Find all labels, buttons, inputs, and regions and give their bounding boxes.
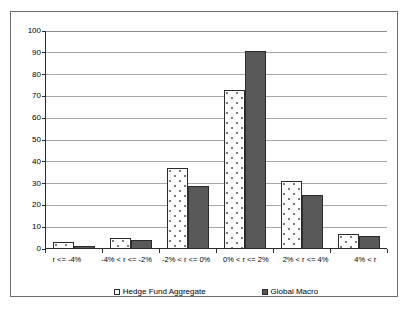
bar	[167, 168, 188, 249]
legend-entry: Global Macro	[262, 288, 319, 296]
bar	[359, 236, 380, 249]
bar-group	[330, 31, 387, 249]
bar-group	[45, 31, 102, 249]
x-axis-tickmark	[330, 249, 331, 253]
bar	[245, 51, 266, 249]
y-axis-tick-label: 30	[32, 180, 41, 188]
x-axis-tickmark	[273, 249, 274, 253]
x-axis-tickmark	[216, 249, 217, 253]
x-axis-category-label: r <= -4%	[37, 255, 97, 265]
legend-entry: Hedge Fund Aggregate	[114, 288, 206, 296]
chart-frame: 0102030405060708090100 r <= -4%-4% < r <…	[10, 11, 398, 297]
y-axis-tick-label: 20	[32, 201, 41, 209]
bar-series-layer	[45, 31, 387, 249]
y-axis-tick-label: 60	[32, 114, 41, 122]
y-axis-tick-label: 0	[37, 245, 41, 253]
bar-group	[216, 31, 273, 249]
y-axis-tick-label: 80	[32, 71, 41, 79]
y-axis-tick-label: 40	[32, 158, 41, 166]
x-axis-tickmarks	[45, 249, 387, 253]
bar	[338, 234, 359, 249]
x-axis-tickmark	[45, 249, 46, 253]
legend-label: Hedge Fund Aggregate	[123, 288, 206, 296]
bar-group	[273, 31, 330, 249]
x-axis-category-label: 2% < r <= 4%	[276, 255, 336, 265]
bar-group	[159, 31, 216, 249]
chart-legend: Hedge Fund AggregateGlobal Macro	[45, 288, 387, 296]
bar	[110, 238, 131, 249]
bar	[302, 195, 323, 250]
legend-swatch-icon	[262, 289, 268, 295]
x-axis-category-label: 4% < r	[335, 255, 395, 265]
x-axis-category-labels: r <= -4%-4% < r <= -2%-2% < r <= 0%0% < …	[37, 255, 395, 265]
x-axis-category-label: -2% < r <= 0%	[156, 255, 216, 265]
bar	[188, 186, 209, 249]
bar-group	[102, 31, 159, 249]
x-axis-tickmark	[159, 249, 160, 253]
x-axis-category-label: -4% < r <= -2%	[97, 255, 157, 265]
x-axis-tickmark	[102, 249, 103, 253]
legend-swatch-icon	[114, 289, 120, 295]
legend-label: Global Macro	[271, 288, 319, 296]
y-axis-tick-label: 10	[32, 223, 41, 231]
x-axis-category-label: 0% < r <= 2%	[216, 255, 276, 265]
y-axis-tick-label: 90	[32, 49, 41, 57]
y-axis-tick-label: 50	[32, 136, 41, 144]
bar	[224, 90, 245, 249]
x-axis-tickmark	[387, 249, 388, 253]
y-axis-tick-label: 70	[32, 92, 41, 100]
y-axis-tick-label: 100	[28, 27, 41, 35]
bar	[131, 240, 152, 249]
bar	[281, 181, 302, 249]
